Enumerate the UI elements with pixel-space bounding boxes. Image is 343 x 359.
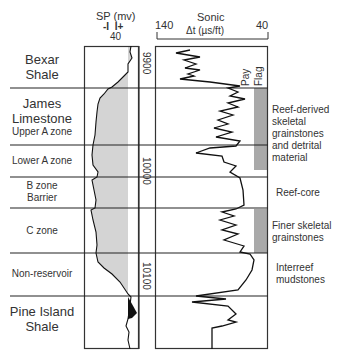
depth-10000: 10000	[141, 157, 152, 185]
pay-label: Pay	[240, 69, 251, 86]
depth-10100: 10100	[141, 262, 152, 290]
sonic-scale-bracket	[157, 32, 268, 39]
flag-label: Flag	[253, 67, 264, 86]
desc-interreef: Interreef mudstones	[276, 262, 325, 286]
zone-pine-island-shale: Pine IslandShale	[0, 304, 84, 334]
desc-reef-derived: Reef-derived skeletal grainstones and de…	[272, 104, 329, 164]
zone-james-limestone-upper-a: James Limestone Upper A zone	[0, 96, 84, 138]
sp-black-deflection	[128, 297, 137, 319]
zone-non-reservoir: Non-reservoir	[0, 268, 84, 280]
zone-bexar-shale: BexarShale	[0, 52, 84, 82]
zone-c: C zone	[0, 225, 84, 237]
sonic-track	[156, 47, 268, 349]
pay-flag-a-zone	[254, 88, 267, 170]
desc-reef-core: Reef-core	[276, 187, 320, 199]
zone-lower-a: Lower A zone	[0, 155, 84, 167]
zone-b-barrier: B zoneBarrier	[0, 180, 84, 204]
sonic-curve	[176, 50, 254, 349]
depth-9900: 9900	[141, 52, 152, 75]
pay-flag-c-zone	[254, 209, 267, 253]
desc-finer-skeletal: Finer skeletal grainstones	[272, 220, 331, 244]
